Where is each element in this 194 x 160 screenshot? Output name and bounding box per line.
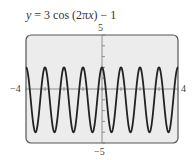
x-max-label: 4: [181, 83, 186, 94]
x-min-label: −4: [10, 83, 21, 94]
plot-area: [0, 0, 194, 160]
y-min-label: −5: [94, 146, 105, 157]
y-max-label: 5: [98, 22, 103, 33]
